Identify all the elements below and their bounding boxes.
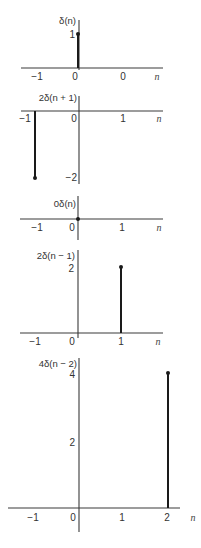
y-tick-label: 1	[69, 29, 75, 40]
x-tick-label: −1	[31, 71, 43, 82]
x-axis-label: n	[156, 336, 161, 347]
y-axis-label: 2δ(n − 1)	[37, 250, 75, 261]
x-tick-label: 0	[71, 113, 77, 124]
x-tick-label: 0	[70, 512, 76, 523]
impulse-decomposition-diagram: δ(n) 1 −1 0 0 n 2δ(n + 1) −2 −1 0 1 n 0δ…	[0, 0, 201, 548]
x-tick-label: 2	[164, 512, 170, 523]
plot-2delta-n-minus-1: 2δ(n − 1) 2 −1 0 1 n	[20, 250, 163, 347]
y-axis-label: 4δ(n − 2)	[39, 358, 77, 369]
x-tick-label: 0	[72, 71, 78, 82]
plot-0delta-n: 0δ(n) −1 0 1 n	[20, 196, 163, 240]
x-tick-label: 0	[69, 222, 75, 233]
plot-delta-n: δ(n) 1 −1 0 0 n	[21, 15, 163, 82]
x-tick-label: 1	[119, 222, 125, 233]
y-axis-label: δ(n)	[59, 15, 76, 26]
y-tick-label: 2	[68, 263, 74, 274]
x-tick-label: 1	[120, 113, 126, 124]
x-axis-label: n	[155, 71, 160, 82]
y-tick-label: 2	[69, 437, 75, 448]
y-axis-label: 2δ(n + 1)	[39, 92, 77, 103]
y-axis-label: 0δ(n)	[54, 198, 76, 209]
stem-dot	[166, 371, 170, 375]
x-tick-label: −1	[19, 113, 31, 124]
y-tick-label: 4	[69, 369, 75, 380]
x-tick-label: 1	[118, 336, 124, 347]
x-tick-label: −1	[31, 222, 43, 233]
plot-4delta-n-minus-2: 4δ(n − 2) 4 2 −1 0 1 2 n	[8, 358, 196, 532]
y-tick-label: −2	[66, 172, 78, 183]
stem-dot	[119, 265, 123, 269]
x-tick-label: 0	[120, 71, 126, 82]
plot-2delta-n-plus-1: 2δ(n + 1) −2 −1 0 1 n	[19, 92, 163, 184]
stem-dot	[33, 176, 37, 180]
x-axis-label: n	[157, 222, 162, 233]
stem-dot	[76, 32, 80, 36]
stem-dot	[76, 217, 80, 221]
x-axis-label: n	[157, 113, 162, 124]
x-tick-label: −1	[29, 336, 41, 347]
x-axis-label: n	[191, 512, 196, 523]
x-tick-label: −1	[27, 512, 39, 523]
x-tick-label: 0	[69, 336, 75, 347]
x-tick-label: 1	[119, 512, 125, 523]
